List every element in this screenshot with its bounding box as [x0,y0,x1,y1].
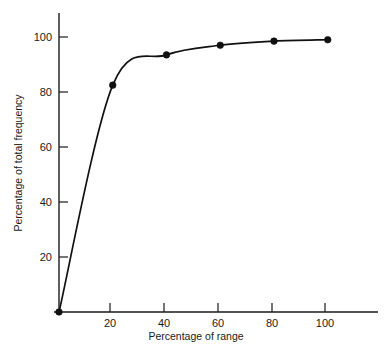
x-tick-label-20: 20 [104,317,116,329]
data-point-marker [271,38,278,45]
line-chart-plot: 100 80 60 40 20 20 40 60 80 100 Percenta… [0,0,385,350]
y-axis-ticks [59,37,68,257]
x-tick-label-100: 100 [316,317,334,329]
x-tick-label-40: 40 [158,317,170,329]
x-tick-label-60: 60 [212,317,224,329]
y-tick-label-60: 60 [40,141,52,153]
data-point-marker [109,82,116,89]
y-tick-label-100: 100 [34,31,52,43]
x-tick-label-80: 80 [266,317,278,329]
data-point-marker [163,52,170,59]
data-point-marker [324,36,331,43]
data-point-marker [217,42,224,49]
axis-group [54,13,378,312]
chart-container: 100 80 60 40 20 20 40 60 80 100 Percenta… [0,0,385,350]
x-axis-title: Percentage of range [148,330,243,342]
y-tick-label-40: 40 [40,196,52,208]
x-axis-tick-labels: 20 40 60 80 100 [104,317,334,329]
y-axis-title: Percentage of total frequency [12,94,24,232]
x-axis-ticks [110,303,325,312]
data-series-markers [56,36,331,315]
data-series-line [59,40,328,312]
y-tick-label-80: 80 [40,86,52,98]
y-tick-label-20: 20 [40,251,52,263]
data-point-marker [56,309,63,316]
y-axis-tick-labels: 100 80 60 40 20 [34,31,52,263]
